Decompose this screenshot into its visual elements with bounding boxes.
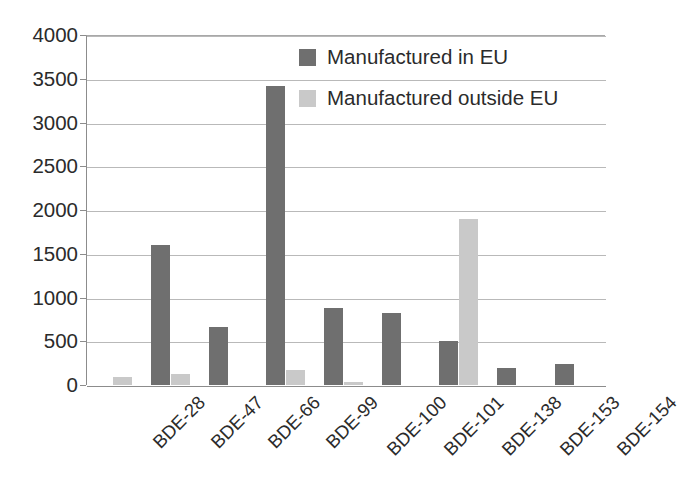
- x-tick-label: BDE-154: [614, 393, 680, 459]
- y-tick-label: 4000: [0, 25, 78, 46]
- x-tick-label: BDE-138: [499, 393, 565, 459]
- y-tick-label: 3000: [0, 113, 78, 134]
- legend-label: Manufactured outside EU: [327, 88, 558, 109]
- x-tick-label: BDE-99: [323, 393, 382, 452]
- gridline: [87, 211, 606, 212]
- bar: [171, 374, 190, 385]
- x-tick-label: BDE-66: [265, 393, 324, 452]
- bar: [151, 245, 170, 385]
- x-tick-label: BDE-100: [383, 393, 449, 459]
- legend-entry: Manufactured in EU: [299, 44, 599, 70]
- chart-legend: Manufactured in EUManufactured outside E…: [299, 44, 599, 126]
- bar: [209, 327, 228, 385]
- legend-label: Manufactured in EU: [327, 47, 508, 68]
- gridline: [87, 36, 606, 37]
- y-tick-label: 2000: [0, 200, 78, 221]
- bar: [113, 377, 132, 385]
- bar: [266, 86, 285, 385]
- x-axis: BDE-28BDE-47BDE-66BDE-99BDE-100BDE-101BD…: [86, 385, 605, 495]
- bar: [555, 364, 574, 385]
- y-tick-label: 500: [0, 331, 78, 352]
- bar: [439, 341, 458, 385]
- bar: [459, 219, 478, 385]
- y-tick-label: 2500: [0, 156, 78, 177]
- gridline: [87, 167, 606, 168]
- legend-swatch-icon: [299, 90, 316, 107]
- x-tick-label: BDE-28: [150, 393, 209, 452]
- bar: [324, 308, 343, 385]
- y-tick-label: 3500: [0, 69, 78, 90]
- bar: [497, 368, 516, 386]
- bar: [382, 313, 401, 385]
- y-tick-label: 1000: [0, 288, 78, 309]
- legend-entry: Manufactured outside EU: [299, 85, 599, 111]
- y-tick-label: 0: [0, 375, 78, 396]
- bar: [286, 370, 305, 385]
- y-tick-label: 1500: [0, 244, 78, 265]
- x-tick-label: BDE-101: [441, 393, 507, 459]
- legend-swatch-icon: [299, 49, 316, 66]
- x-tick-label: BDE-47: [207, 393, 266, 452]
